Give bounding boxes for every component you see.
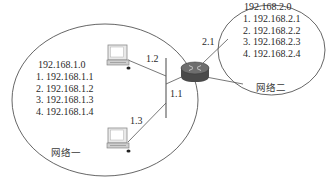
network1-address: 192.168.1.0 <box>38 59 86 71</box>
network1-host: 2. 192.168.1.2 <box>36 83 94 95</box>
network1-host: 1. 192.168.1.1 <box>36 71 94 83</box>
port-label-pc-bottom: 1.3 <box>130 115 143 126</box>
network1-name: 网络一 <box>51 145 81 159</box>
network2-host: 1. 192.168.2.1 <box>243 13 301 25</box>
port-label-router-wan: 2.1 <box>202 36 215 47</box>
network2-host: 4. 192.168.2.4 <box>243 48 301 60</box>
network2-host-list: 1. 192.168.2.1 2. 192.168.2.2 3. 192.168… <box>243 13 301 59</box>
computer-icon-top <box>107 45 131 70</box>
network2-name: 网络二 <box>256 80 286 94</box>
network1-host: 4. 192.168.1.4 <box>36 106 94 118</box>
network1-host-list: 1. 192.168.1.1 2. 192.168.1.2 3. 192.168… <box>36 71 94 117</box>
port-label-pc-top: 1.2 <box>146 53 159 64</box>
network1-host: 3. 192.168.1.3 <box>36 94 94 106</box>
router-icon <box>181 62 209 82</box>
port-label-router-lan: 1.1 <box>170 88 183 99</box>
computer-icon-bottom <box>107 128 131 153</box>
network2-address: 192.168.2.0 <box>244 1 292 13</box>
network2-host: 3. 192.168.2.3 <box>243 36 301 48</box>
link-router-to-network2-label <box>206 77 243 84</box>
network-diagram: 192.168.1.0 1. 192.168.1.1 2. 192.168.1.… <box>0 0 328 183</box>
network2-host: 2. 192.168.2.2 <box>243 25 301 37</box>
